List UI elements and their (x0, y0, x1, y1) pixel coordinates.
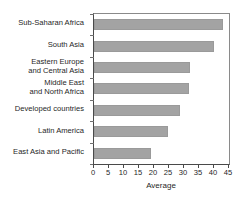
bar (94, 126, 168, 137)
bar (94, 62, 190, 73)
bar-slot (94, 78, 229, 99)
y-axis-tick (90, 78, 94, 79)
category-label: Middle East and North Africa (0, 77, 88, 98)
category-label: East Asia and Pacific (0, 142, 88, 163)
bar-slot (94, 14, 229, 35)
bar-slot (94, 121, 229, 142)
y-axis-tick (90, 35, 94, 36)
x-axis-tick-label: 15 (134, 168, 142, 178)
y-axis-tick (90, 14, 94, 15)
x-axis-tick-label: 25 (164, 168, 172, 178)
bar-slot (94, 100, 229, 121)
x-axis-tick-label: 10 (119, 168, 127, 178)
bar-slot (94, 57, 229, 78)
bar (94, 41, 214, 52)
y-axis-tick (90, 57, 94, 58)
category-label: South Asia (0, 34, 88, 55)
y-axis-tick (90, 121, 94, 122)
bar-slot (94, 35, 229, 56)
x-axis-title: Average (93, 181, 229, 190)
bar (94, 105, 180, 116)
bar (94, 148, 151, 159)
bar (94, 83, 189, 94)
category-label: Eastern Europe and Central Asia (0, 56, 88, 77)
y-axis-tick (90, 100, 94, 101)
bar-series (94, 14, 229, 164)
bar (94, 19, 223, 30)
bar-slot (94, 143, 229, 164)
x-axis-tick-labels: 051015202530354045 (93, 168, 229, 179)
x-axis-tick-label: 5 (106, 168, 110, 178)
category-label: Sub-Saharan Africa (0, 13, 88, 34)
category-axis-labels: Sub-Saharan AfricaSouth AsiaEastern Euro… (0, 13, 88, 163)
y-axis-tick (90, 143, 94, 144)
x-axis-tick-label: 20 (149, 168, 157, 178)
x-axis-tick-label: 35 (194, 168, 202, 178)
x-axis-tick-label: 0 (91, 168, 95, 178)
x-axis-tick-label: 30 (179, 168, 187, 178)
x-axis-tick-label: 40 (209, 168, 217, 178)
category-label: Developed countries (0, 99, 88, 120)
category-label: Latin America (0, 120, 88, 141)
plot-area (93, 13, 230, 165)
x-axis-tick-label: 45 (224, 168, 232, 178)
horizontal-bar-chart: Sub-Saharan AfricaSouth AsiaEastern Euro… (0, 0, 242, 205)
